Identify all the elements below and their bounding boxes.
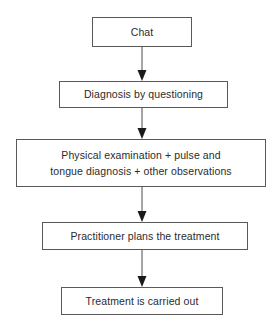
- connector-plans-to-carried-out: [138, 250, 147, 287]
- flowchart-node-examination: Physical examination + pulse and tongue …: [16, 139, 266, 187]
- connector-diagnosis-to-examination: [138, 108, 147, 139]
- flowchart-diagram: Chat Diagnosis by questioning Physical e…: [0, 0, 280, 332]
- flowchart-node-diagnosis-line-1: Diagnosis by questioning: [84, 86, 203, 102]
- connector-examination-to-plans: [138, 187, 147, 222]
- flowchart-node-examination-line-1: Physical examination + pulse and: [61, 147, 220, 163]
- flowchart-node-chat: Chat: [92, 17, 192, 47]
- flowchart-node-examination-line-2: tongue diagnosis + other observations: [50, 163, 231, 179]
- flowchart-node-chat-line-1: Chat: [131, 24, 154, 40]
- flowchart-node-plans-line-1: Practitioner plans the treatment: [70, 228, 219, 244]
- flowchart-node-carried-out-line-1: Treatment is carried out: [86, 293, 199, 309]
- connector-chat-to-diagnosis: [138, 47, 147, 81]
- flowchart-node-carried-out: Treatment is carried out: [61, 287, 223, 315]
- flowchart-node-plans: Practitioner plans the treatment: [42, 222, 248, 250]
- flowchart-node-diagnosis: Diagnosis by questioning: [59, 81, 228, 108]
